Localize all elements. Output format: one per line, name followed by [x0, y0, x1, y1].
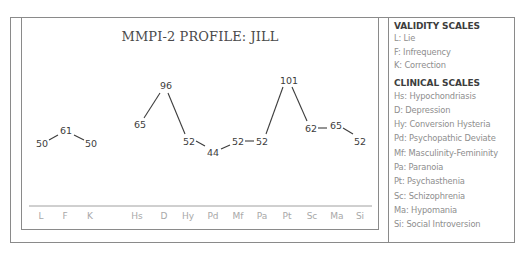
- clinical-lines: [144, 87, 353, 149]
- axis-label-Pd: Pd: [207, 211, 218, 221]
- axis-label-K: K: [87, 211, 94, 221]
- value-label-Ma: 65: [330, 120, 342, 131]
- value-label-K: 50: [85, 138, 97, 149]
- validity-scales-heading: VALIDITY SCALES: [394, 20, 515, 32]
- axis-label-Hs: Hs: [131, 211, 143, 221]
- axis-label-Sc: Sc: [307, 211, 318, 221]
- axis-label-Pa: Pa: [257, 211, 268, 221]
- legend-item-masculinity-femininity: Mf: Masculinity-Femininity: [394, 146, 515, 160]
- value-label-F: 61: [60, 125, 72, 136]
- value-labels: 50 61 50 65 96 52 44 52 52 101 62 65 52: [36, 75, 366, 158]
- legend-item-paranoia: Pa: Paranoia: [394, 160, 515, 174]
- axis-label-Si: Si: [356, 211, 364, 221]
- value-label-Hs: 65: [134, 119, 146, 130]
- value-label-Si: 52: [354, 136, 366, 147]
- axis-label-Pt: Pt: [283, 211, 292, 221]
- axis-label-Mf: Mf: [233, 211, 245, 221]
- legend-item-conversion-hysteria: Hy: Conversion Hysteria: [394, 117, 515, 131]
- legend-item-schizophrenia: Sc: Schizophrenia: [394, 189, 515, 203]
- value-label-Mf: 52: [232, 136, 244, 147]
- value-label-Pd: 44: [207, 147, 219, 158]
- value-label-D: 96: [160, 80, 172, 91]
- value-label-L: 50: [36, 138, 48, 149]
- value-label-Sc: 62: [305, 123, 317, 134]
- legend-item-lie: L: Lie: [394, 32, 515, 46]
- x-axis-labels: L F K Hs D Hy Pd Mf Pa Pt Sc Ma Si: [38, 211, 364, 221]
- value-label-Hy: 52: [183, 136, 195, 147]
- legend-item-depression: D: Depression: [394, 103, 515, 117]
- value-label-Pt: 101: [280, 75, 298, 86]
- legend-item-psychasthenia: Pt: Psychasthenia: [394, 174, 515, 188]
- axis-label-L: L: [38, 211, 43, 221]
- legend-item-social-introversion: Si: Social Introversion: [394, 217, 515, 231]
- legend-panel: VALIDITY SCALES L: Lie F: Infrequency K:…: [388, 17, 515, 243]
- axis-label-D: D: [161, 211, 168, 221]
- axis-label-Hy: Hy: [182, 211, 195, 221]
- legend-item-hypochondriasis: Hs: Hypochondriasis: [394, 89, 515, 103]
- value-label-Pa: 52: [256, 136, 268, 147]
- legend-item-psychopathic-deviate: Pd: Psychopathic Deviate: [394, 131, 515, 145]
- axis-label-F: F: [62, 211, 67, 221]
- legend-item-correction: K: Correction: [394, 59, 515, 73]
- clinical-scales-heading: CLINICAL SCALES: [394, 77, 515, 89]
- axis-label-Ma: Ma: [330, 211, 343, 221]
- legend-item-infrequency: F: Infrequency: [394, 46, 515, 60]
- legend-item-hypomania: Ma: Hypomania: [394, 203, 515, 217]
